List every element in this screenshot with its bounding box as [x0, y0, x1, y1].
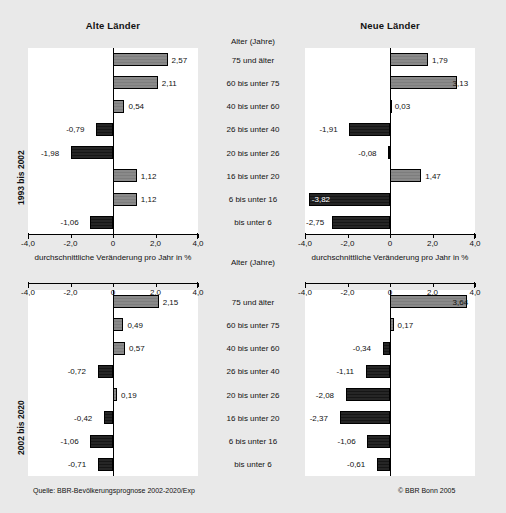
bar-value-label: -2,37 — [310, 413, 328, 422]
bar-row: 1,12 — [28, 169, 198, 182]
bar-positive — [390, 100, 392, 113]
plot-panel-bottom-right: 3,640,17-0,34-1,11-2,08-2,37-1,06-0,61 — [305, 290, 475, 476]
bar-row: 0,49 — [28, 318, 198, 331]
bar-row: 0,19 — [28, 388, 198, 401]
axis-tick-label: 4,0 — [469, 239, 480, 248]
bar-value-label: 0,54 — [128, 102, 144, 111]
x-axis: -4,0-2,002,04,0 — [28, 234, 198, 252]
bar-row: -0,79 — [28, 123, 198, 136]
age-group-label: 75 und älter — [197, 55, 309, 64]
bar-negative — [90, 435, 113, 448]
bar-row: -2,08 — [305, 388, 475, 401]
bar-positive — [113, 53, 168, 66]
row-label-1993-2002: 1993 bis 2002 — [16, 150, 26, 205]
axis-tick-label: 2,0 — [150, 288, 161, 297]
bar-positive — [390, 76, 457, 89]
x-axis: -4,0-2,002,04,0 — [305, 283, 475, 301]
age-group-label: 40 bis unter 60 — [197, 102, 309, 111]
axis-tick-label: 0 — [388, 239, 392, 248]
bar-positive — [113, 76, 158, 89]
age-group-label: 75 und älter — [197, 297, 309, 306]
bar-positive — [113, 169, 137, 182]
axis-tick — [156, 234, 157, 238]
axis-tick-label: 2,0 — [150, 239, 161, 248]
axis-tick-label: -2,0 — [341, 288, 355, 297]
bar-negative — [332, 216, 390, 229]
bar-row: 0,17 — [305, 318, 475, 331]
bar-value-label: -1,11 — [336, 367, 354, 376]
bar-row: 1,47 — [305, 169, 475, 182]
chart-figure: Alte Länder Neue Länder Alter (Jahre) Al… — [0, 0, 506, 513]
bar-value-label: -1,06 — [60, 218, 78, 227]
bar-positive — [113, 342, 125, 355]
age-group-label: 20 bis unter 26 — [197, 148, 309, 157]
axis-tick — [305, 283, 306, 287]
x-axis: -4,0-2,002,04,0 — [28, 283, 198, 301]
bar-negative — [383, 342, 390, 355]
bar-value-label: -0,08 — [358, 148, 376, 157]
bar-row: 1,79 — [305, 53, 475, 66]
axis-tick-label: -2,0 — [64, 239, 78, 248]
axis-tick — [71, 234, 72, 238]
bar-value-label: 0,19 — [121, 390, 137, 399]
bar-row: -0,71 — [28, 458, 198, 471]
bar-negative — [98, 458, 113, 471]
age-column-header-top: Alter (Jahre) — [198, 37, 308, 46]
age-group-label: 6 bis unter 16 — [197, 195, 309, 204]
bar-value-label: 2,57 — [172, 55, 188, 64]
x-axis: -4,0-2,002,04,0 — [305, 234, 475, 252]
source-note: Quelle: BBR-Bevölkerungsprognose 2002-20… — [33, 487, 195, 494]
plot-panel-bottom-left: 2,150,490,57-0,720,19-0,42-1,06-0,71 — [28, 290, 198, 476]
axis-tick — [198, 234, 199, 238]
age-group-label: 26 bis unter 40 — [197, 125, 309, 134]
plot-panel-top-right: 1,793,130,03-1,91-0,081,47-3,82-2,75 — [305, 48, 475, 234]
age-group-label: 26 bis unter 40 — [197, 367, 309, 376]
axis-tick — [390, 234, 391, 238]
bar-row: -1,06 — [28, 216, 198, 229]
bar-negative — [366, 365, 390, 378]
axis-tick-label: -2,0 — [64, 288, 78, 297]
bar-value-label: -0,42 — [74, 413, 92, 422]
panel-title-neue-laender: Neue Länder — [305, 20, 475, 31]
axis-tick-label: -4,0 — [298, 288, 312, 297]
axis-tick-label: 4,0 — [192, 239, 203, 248]
bar-value-label: 1,79 — [432, 55, 448, 64]
bar-value-label: 3,13 — [453, 78, 469, 87]
bar-row: -0,42 — [28, 411, 198, 424]
bar-negative — [340, 411, 390, 424]
bar-value-label: -3,82 — [312, 195, 330, 204]
bar-negative — [377, 458, 390, 471]
bar-row: -1,06 — [28, 435, 198, 448]
age-group-label: 60 bis unter 75 — [197, 78, 309, 87]
bar-positive — [113, 318, 123, 331]
axis-tick — [113, 234, 114, 238]
axis-tick-label: 2,0 — [427, 239, 438, 248]
axis-tick-label: 0 — [111, 288, 115, 297]
bar-value-label: 1,47 — [425, 171, 441, 180]
axis-tick — [156, 283, 157, 287]
bar-positive — [390, 169, 421, 182]
bar-positive — [113, 193, 137, 206]
axis-tick — [198, 283, 199, 287]
bar-value-label: -1,06 — [337, 437, 355, 446]
axis-tick-label: 0 — [388, 288, 392, 297]
axis-tick — [475, 234, 476, 238]
plot-panel-top-left: 2,572,110,54-0,79-1,981,121,12-1,06 — [28, 48, 198, 234]
age-group-label: 40 bis unter 60 — [197, 344, 309, 353]
bar-value-label: -0,79 — [66, 125, 84, 134]
axis-tick-label: 4,0 — [192, 288, 203, 297]
bar-value-label: 1,12 — [141, 171, 157, 180]
axis-tick — [113, 283, 114, 287]
bar-row: 3,13 — [305, 76, 475, 89]
bar-value-label: 0,03 — [395, 102, 411, 111]
bar-row: -2,75 — [305, 216, 475, 229]
bar-positive — [390, 53, 428, 66]
age-group-label: 16 bis unter 20 — [197, 171, 309, 180]
x-axis-caption: durchschnittliche Veränderung pro Jahr i… — [290, 253, 490, 262]
age-group-label: 6 bis unter 16 — [197, 437, 309, 446]
bar-negative — [388, 146, 390, 159]
bar-value-label: -0,61 — [347, 460, 365, 469]
bar-row: -0,61 — [305, 458, 475, 471]
bar-row: 0,57 — [28, 342, 198, 355]
bar-row: -1,98 — [28, 146, 198, 159]
